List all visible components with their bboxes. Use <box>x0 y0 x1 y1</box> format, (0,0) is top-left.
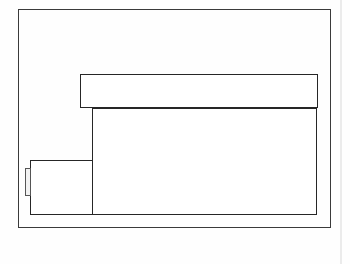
drawing-canvas <box>0 0 350 264</box>
top-horizontal-bar <box>80 74 318 108</box>
left-side-box <box>30 160 93 215</box>
page-edge-artifact <box>340 0 342 264</box>
main-body-rectangle <box>92 108 317 215</box>
left-edge-tab <box>25 168 31 196</box>
